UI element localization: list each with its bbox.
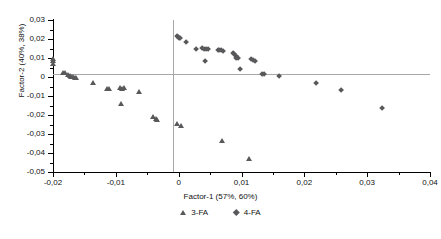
scatter-chart: 0,030,020,010-0,01-0,02-0,03-0,04-0,05-0… — [0, 0, 441, 239]
data-point-3-fa — [118, 101, 124, 106]
data-point-3-fa — [136, 89, 142, 94]
x-tick-minor — [399, 172, 400, 175]
y-axis-title: Factor-2 (40%, 38%) — [17, 0, 26, 131]
data-point-3-fa — [90, 80, 96, 85]
data-point-3-fa — [219, 138, 225, 143]
x-tick-major — [242, 172, 243, 177]
plot-area — [53, 20, 430, 172]
x-tick-label: 0,04 — [422, 179, 438, 187]
x-tick-minor — [210, 172, 211, 175]
chart-legend: 3-FA 4-FA — [0, 208, 441, 217]
data-point-3-fa — [246, 156, 252, 161]
legend-label-4-fa: 4-FA — [244, 208, 261, 217]
y-tick-label: 0,02 — [29, 35, 45, 43]
y-tick-label: -0,03 — [27, 130, 45, 138]
x-tick-major — [179, 172, 180, 177]
x-tick-major — [116, 172, 117, 177]
x-tick-label: 0 — [176, 179, 180, 187]
x-tick-label: -0,01 — [107, 179, 125, 187]
data-point-3-fa — [178, 123, 184, 128]
x-tick-major — [367, 172, 368, 177]
diamond-marker-icon — [233, 209, 239, 215]
x-tick-label: 0,02 — [297, 179, 313, 187]
x-tick-label: 0,03 — [359, 179, 375, 187]
data-point-3-fa — [50, 61, 56, 66]
y-tick-label: -0,02 — [27, 111, 45, 119]
y-tick-label: -0,04 — [27, 149, 45, 157]
x-tick-major — [53, 172, 54, 177]
y-tick-label: -0,01 — [27, 92, 45, 100]
data-point-3-fa — [73, 75, 79, 80]
x-tick-minor — [147, 172, 148, 175]
legend-item-4-fa: 4-FA — [234, 208, 261, 217]
x-tick-minor — [273, 172, 274, 175]
y-tick-label: 0 — [41, 73, 45, 81]
data-point-3-fa — [121, 85, 127, 90]
legend-label-3-fa: 3-FA — [191, 208, 208, 217]
y-tick-label: -0,05 — [27, 168, 45, 176]
x-tick-label: -0,02 — [44, 179, 62, 187]
y-tick-label: 0,01 — [29, 54, 45, 62]
data-point-3-fa — [106, 86, 112, 91]
y-tick-label: 0,03 — [29, 16, 45, 24]
legend-item-3-fa: 3-FA — [180, 208, 208, 217]
triangle-marker-icon — [180, 210, 186, 215]
x-tick-minor — [84, 172, 85, 175]
x-tick-label: 0,01 — [234, 179, 250, 187]
x-axis-title: Factor-1 (57%, 60%) — [0, 192, 441, 201]
x-tick-major — [304, 172, 305, 177]
x-tick-minor — [336, 172, 337, 175]
data-point-3-fa — [154, 117, 160, 122]
x-tick-major — [430, 172, 431, 177]
